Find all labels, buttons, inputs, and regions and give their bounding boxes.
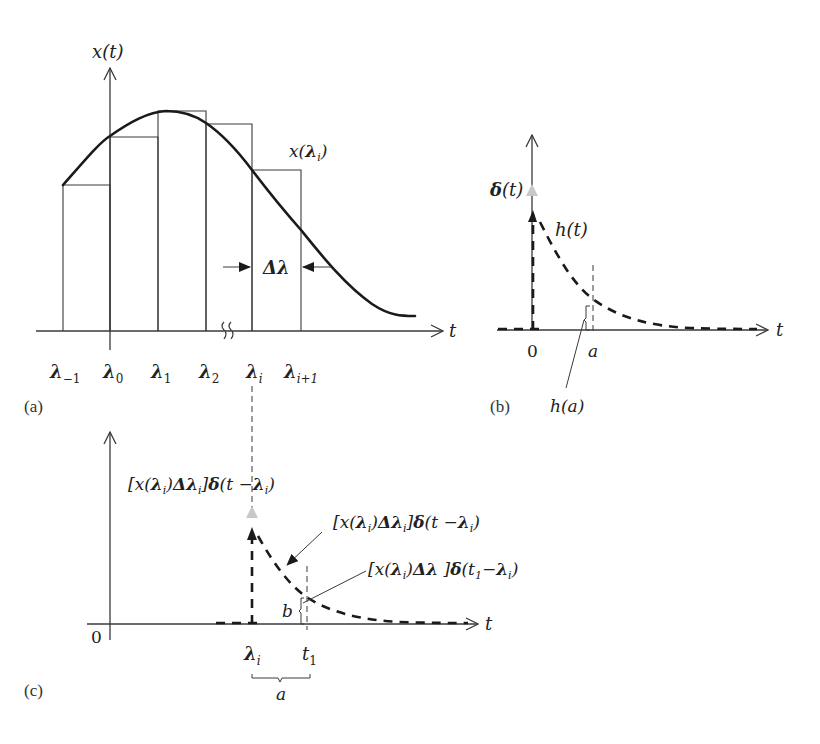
bar-lambda-1 (158, 111, 206, 331)
tick-lambda-0: λ0 (102, 361, 123, 386)
impulse-label-delta-t: δ(t) (489, 179, 523, 200)
impulse-arrowhead (528, 210, 537, 222)
impulse-label: [x(λi)Δλi]δ(t −λi) (128, 474, 275, 497)
tick-a: a (588, 341, 598, 361)
t-axis-label: t (449, 320, 457, 341)
value-label: [x(λi)Δλ ]δ(t1−λi) (368, 559, 518, 582)
impulse-arrowhead-gray (526, 184, 538, 196)
panel-a: x(t) t x(λi) Δλ λ−1 λ0 λ1 λ2 λi λi+1 (24, 41, 457, 508)
span-label-a: a (276, 684, 286, 704)
h-a-bracket (584, 306, 590, 330)
tick-lambda-i: λi (245, 361, 263, 386)
tick-lambda-minus1: λ−1 (49, 361, 80, 386)
tick-lambda-i-plus-1: λi+1 (283, 361, 318, 386)
panel-a-label: (a) (24, 397, 43, 416)
panel-c: t 0 [x(λi)Δλi]δ(t −λi) b [x(λi)Δλi]δ(t −… (24, 432, 518, 704)
bar-lambda-i (252, 170, 301, 331)
tick-lambda-i: λi (243, 643, 261, 668)
tick-lambda-2: λ2 (198, 361, 219, 386)
impulse-arrowhead-gray (246, 506, 258, 518)
tick-t1: t1 (302, 643, 317, 668)
value-label-h-a: h(a) (550, 396, 584, 416)
figure-canvas: x(t) t x(λi) Δλ λ−1 λ0 λ1 λ2 λi λi+1 (0, 0, 820, 744)
signal-curve-x-of-t (63, 111, 415, 316)
panel-b-label: (b) (490, 397, 510, 416)
height-label-b: b (282, 601, 293, 621)
curve-label-x-lambda-i: x(λi) (289, 141, 327, 164)
bar-lambda-minus1 (63, 185, 110, 331)
delta-lambda-label: Δλ (262, 257, 290, 278)
tick-lambda-1: λ1 (150, 361, 171, 386)
response-label: [x(λi)Δλi]δ(t −λi) (333, 512, 480, 535)
value-leader-line (303, 571, 366, 603)
t-axis-label: t (776, 319, 784, 340)
response-leader-arrow (287, 532, 322, 565)
panel-b: t δ(t) h(t) 0 a h(a) (b) (489, 135, 784, 416)
a-span-brace (252, 674, 310, 682)
lambda-tick-labels: λ−1 λ0 λ1 λ2 λi λi+1 (49, 361, 318, 386)
t-axis-label: t (485, 613, 493, 634)
bar-lambda-0 (110, 137, 158, 331)
response-label-h-t: h(t) (555, 219, 588, 240)
origin-label: 0 (91, 627, 102, 647)
b-bracket (299, 598, 304, 624)
tick-zero: 0 (527, 341, 538, 361)
impulse-arrowhead (247, 527, 257, 540)
y-axis-label: x(t) (92, 41, 123, 62)
panel-c-label: (c) (24, 681, 43, 700)
bar-lambda-2 (206, 124, 252, 331)
